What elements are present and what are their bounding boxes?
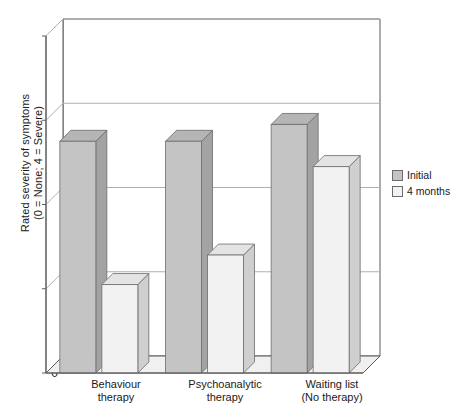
x-label-behaviour-therapy: Behaviour therapy xyxy=(56,378,176,404)
plot-area xyxy=(0,0,461,414)
bar-initial-1-front xyxy=(166,141,202,373)
bar-4-months-0-side xyxy=(138,274,149,373)
bar-4-months-2-side xyxy=(349,156,360,373)
bar-initial-2-front xyxy=(271,124,307,373)
bar-4-months-1-front xyxy=(208,255,244,373)
legend-item-initial: Initial xyxy=(392,168,450,182)
bar-4-months-1-side xyxy=(244,244,255,373)
legend-label-4-months: 4 months xyxy=(407,184,450,198)
legend-swatch-4-months xyxy=(392,186,403,197)
bar-4-months-2-front xyxy=(313,167,349,373)
legend-item-4-months: 4 months xyxy=(392,184,450,198)
bar-initial-0-front xyxy=(60,141,96,373)
bar-chart: Rated severity of symptoms (0 = None; 4 … xyxy=(0,0,461,414)
x-label-waiting-list: Waiting list (No therapy) xyxy=(272,378,392,404)
legend-swatch-initial xyxy=(392,170,403,181)
x-label-psychoanalytic-therapy: Psychoanalytic therapy xyxy=(165,378,285,404)
bar-4-months-0-front xyxy=(102,285,138,373)
legend-label-initial: Initial xyxy=(407,168,432,182)
legend: Initial 4 months xyxy=(392,168,450,200)
